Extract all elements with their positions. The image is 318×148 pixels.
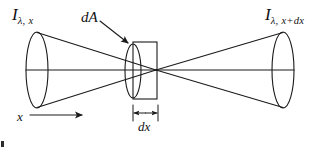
outgoing-intensity-subscript: λ, x+dx	[271, 15, 305, 26]
right-cone-lower-edge	[156, 70, 283, 108]
radiative-transfer-figure: Iλ, x Iλ, x+dx dA x dx	[0, 0, 318, 148]
outgoing-intensity-symbol: I	[265, 5, 271, 24]
x-axis-label: x	[17, 110, 23, 123]
right-cone-upper-edge	[156, 33, 283, 71]
area-element-label: dA	[81, 10, 98, 25]
area-element-pointer-arrow	[100, 21, 128, 43]
incoming-intensity-label: Iλ, x	[12, 6, 33, 23]
incoming-intensity-subscript: λ, x	[18, 15, 34, 26]
incoming-intensity-symbol: I	[12, 5, 18, 24]
outgoing-intensity-label: Iλ, x+dx	[265, 6, 304, 23]
scan-artifact-mark	[1, 141, 4, 147]
thickness-label: dx	[138, 120, 150, 133]
left-cone-lower-edge	[37, 70, 156, 108]
